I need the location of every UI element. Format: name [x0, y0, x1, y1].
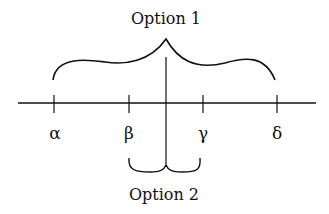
- axis-label-gamma: γ: [198, 123, 208, 143]
- bottom-option-label: Option 2: [129, 185, 199, 204]
- number-line-diagram: Option 1 α β γ δ Option 2: [0, 0, 329, 214]
- bottom-brace: [129, 158, 200, 172]
- axis-label-alpha: α: [49, 123, 61, 143]
- top-brace: [53, 39, 275, 80]
- axis-label-delta: δ: [272, 123, 282, 143]
- axis-label-beta: β: [124, 123, 134, 143]
- top-option-label: Option 1: [131, 9, 201, 28]
